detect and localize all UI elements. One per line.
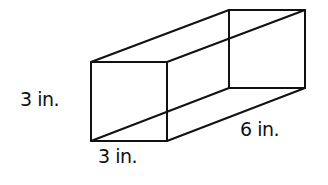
edge-top-left xyxy=(91,10,229,62)
back-face xyxy=(229,10,305,88)
edge-bottom-right xyxy=(167,88,305,141)
prism-diagram: 3 in. 3 in. 6 in. xyxy=(0,0,328,185)
edge-top-right xyxy=(167,10,305,62)
length-label: 6 in. xyxy=(240,118,279,140)
width-label: 3 in. xyxy=(98,145,137,167)
height-label: 3 in. xyxy=(20,88,59,110)
front-face xyxy=(91,62,167,141)
edge-bottom-left xyxy=(91,88,229,141)
